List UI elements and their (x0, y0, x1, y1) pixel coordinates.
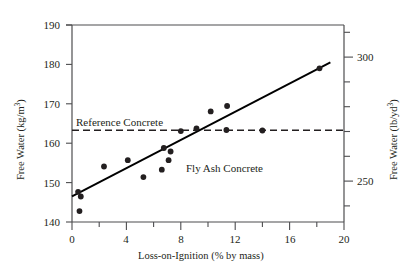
data-point (141, 174, 147, 180)
y-tick-label-right-300: 300 (357, 52, 374, 63)
data-point (166, 157, 172, 163)
data-point (194, 125, 200, 131)
y-tick-label-170: 170 (34, 99, 60, 110)
y-axis-title-left: Free Water (kg/m3) (16, 99, 27, 180)
annotation-reference-concrete: Reference Concrete (76, 117, 163, 128)
annotation-fly-ash-concrete: Fly Ash Concrete (186, 163, 263, 174)
y-tick-label-160: 160 (34, 138, 60, 149)
y-tick-label-150: 150 (34, 178, 60, 189)
y-axis-title-right-close: ) (388, 99, 399, 103)
y-axis-title-right: Free Water (lb/yd3) (389, 99, 400, 180)
y-axis-title-right-text: Free Water (lb/yd (388, 106, 399, 180)
y-axis-title-left-close: ) (15, 99, 26, 103)
x-axis-ticks (72, 222, 344, 230)
y-tick-label-180: 180 (34, 59, 60, 70)
data-point (161, 145, 167, 151)
data-point (208, 109, 214, 115)
data-point (168, 149, 174, 155)
y-tick-label-140: 140 (34, 217, 60, 228)
y-tick-label-190: 190 (34, 20, 60, 31)
data-point (317, 65, 323, 71)
data-point (178, 128, 184, 134)
y-tick-label-right-250: 250 (357, 176, 374, 187)
data-point (260, 128, 266, 134)
chart-figure: 190 180 170 160 150 140 300 250 0 4 8 12… (0, 0, 406, 276)
data-point (78, 194, 84, 200)
data-point (224, 127, 230, 133)
x-tick-label-8: 8 (171, 234, 191, 245)
data-point (101, 164, 107, 170)
x-tick-label-16: 16 (280, 234, 300, 245)
data-point (77, 208, 83, 214)
regression-trend-line (72, 62, 330, 196)
data-point (125, 157, 131, 163)
x-tick-label-12: 12 (225, 234, 245, 245)
y-axis-title-left-text: Free Water (kg/m (15, 106, 26, 180)
x-tick-label-0: 0 (62, 234, 82, 245)
y-axis-ticks-left (66, 25, 72, 222)
x-tick-label-20: 20 (334, 234, 354, 245)
scatter-points (75, 65, 322, 214)
data-point (224, 103, 230, 109)
y-axis-title-left-sup: 3 (13, 103, 22, 107)
x-axis-title: Loss-on-Ignition (% by mass) (138, 251, 264, 262)
y-axis-ticks-right (344, 32, 353, 206)
y-axis-title-right-sup: 3 (386, 103, 395, 107)
x-tick-label-4: 4 (116, 234, 136, 245)
data-point (159, 167, 165, 173)
